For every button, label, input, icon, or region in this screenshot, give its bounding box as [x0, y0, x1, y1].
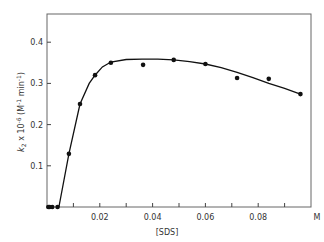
data-point [235, 76, 240, 81]
data-point [171, 58, 176, 63]
plot-frame [47, 14, 311, 207]
x-tick-label: 0.02 [91, 213, 109, 222]
y-tick-label: 0.3 [30, 79, 43, 88]
x-tick-label: M [314, 213, 321, 222]
data-point [203, 62, 208, 67]
y-axis-tick-labels: 0.10.20.30.4 [30, 38, 43, 171]
data-point [298, 92, 303, 97]
fitted-curve-line [59, 59, 301, 207]
data-point [78, 102, 83, 107]
data-point [67, 152, 72, 157]
y-tick-label: 0.4 [30, 38, 43, 47]
svg-text:k2 x 10-6 (M-1 min-1): k2 x 10-6 (M-1 min-1) [15, 72, 27, 152]
data-point [50, 205, 55, 210]
data-point [109, 61, 114, 66]
x-tick-label: 0.04 [144, 213, 162, 222]
y-tick-label: 0.2 [30, 121, 43, 130]
x-tick-label: 0.06 [196, 213, 214, 222]
data-point [93, 73, 98, 78]
chart: 0.020.040.060.08M 0.10.20.30.4 [SDS] k2 … [0, 0, 324, 242]
y-axis-ticks [47, 42, 51, 166]
x-axis-tick-labels: 0.020.040.060.08M [91, 213, 321, 222]
x-axis-label: [SDS] [156, 228, 179, 237]
data-point [266, 77, 271, 82]
data-point [55, 205, 60, 210]
data-points [46, 58, 303, 210]
y-tick-label: 0.1 [30, 162, 43, 171]
y-axis-label: k2 x 10-6 (M-1 min-1) [15, 72, 27, 152]
x-tick-label: 0.08 [249, 213, 267, 222]
x-axis-ticks [73, 203, 284, 207]
data-point [141, 63, 146, 68]
